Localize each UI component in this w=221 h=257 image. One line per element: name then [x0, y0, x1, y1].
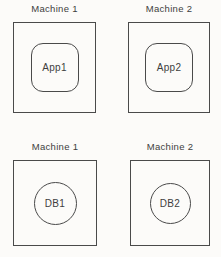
- db-node: DB1: [34, 182, 77, 225]
- db-node: DB2: [150, 183, 191, 224]
- machine-box-bottom-left: DB1: [13, 160, 97, 246]
- machine-label-top-right: Machine 2: [128, 3, 210, 14]
- app-node: App2: [145, 43, 193, 92]
- machine-box-top-right: App2: [128, 22, 210, 113]
- machine-box-top-left: App1: [13, 22, 96, 113]
- machine-label-top-left: Machine 1: [13, 3, 96, 14]
- app-node-label: App1: [42, 62, 67, 73]
- machine-box-bottom-right: DB2: [130, 160, 210, 246]
- app-node: App1: [31, 43, 79, 92]
- machine-label-bottom-right: Machine 2: [130, 141, 210, 152]
- machine-label-bottom-left: Machine 1: [13, 141, 97, 152]
- db-node-label: DB2: [160, 198, 180, 209]
- app-node-label: App2: [157, 62, 182, 73]
- db-node-label: DB1: [45, 198, 65, 209]
